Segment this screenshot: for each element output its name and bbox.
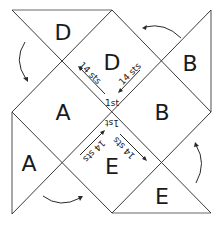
label-left-inner: A (55, 100, 70, 125)
label-top-outer: D (55, 20, 72, 45)
label-left-outer: A (21, 151, 36, 176)
label-bottom-inner: E (105, 154, 119, 179)
diagonal-lines (12, 10, 211, 214)
label-right-inner: B (154, 100, 169, 125)
fold-arrow-bottom-right (196, 145, 202, 183)
arrowhead-fold-bottom-right (194, 142, 199, 147)
arrowhead-fold-top-right (142, 25, 147, 30)
fold-arrow-top-left (19, 42, 26, 79)
fold-arrow-top-right (145, 26, 181, 38)
stitch-count-bottom-left: 14 sts (81, 138, 108, 165)
first-stitch-bottom: 1st (105, 118, 119, 128)
knitting-diagram: D D B B A A E E 14 sts 14 sts 1st 1st 14… (0, 0, 223, 226)
first-stitch-top: 1st (105, 98, 119, 108)
fold-arrow-bottom-left (43, 196, 80, 203)
stitch-count-top-left: 14 sts (77, 60, 104, 87)
label-bottom-outer: E (155, 184, 169, 209)
label-top-inner: D (104, 50, 121, 75)
arrowhead-fold-top-left (23, 77, 28, 82)
label-right-outer: B (182, 51, 197, 76)
